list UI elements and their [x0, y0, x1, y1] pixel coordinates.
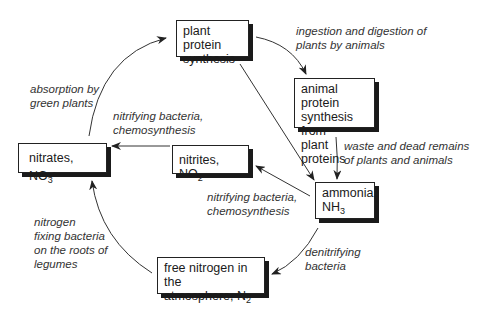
node-nitrates: nitrates, NO3- — [18, 143, 107, 173]
formula-superscript: - — [53, 167, 56, 177]
label-line: on the roots of — [34, 243, 108, 257]
label-line: green plants — [30, 96, 99, 110]
node-line: atmosphere, N2 — [164, 289, 258, 307]
node-line: NH3 — [322, 200, 368, 218]
label-line: nitrifying bacteria, — [207, 190, 297, 204]
label-line: ingestion and digestion of — [296, 24, 426, 38]
node-nitrites: nitrites, NO2 — [172, 145, 249, 174]
label-line: of plants and animals — [344, 153, 469, 167]
node-ammonia: ammonia, NH3 — [315, 182, 375, 219]
label-nitrifying-nitrites: nitrifying bacteria, chemosynthesis — [113, 109, 203, 137]
nitrogen-cycle-diagram: plant protein synthesis animal protein s… — [0, 0, 488, 320]
label-line: nitrogen — [34, 215, 108, 229]
label-nitrifying-ammonia: nitrifying bacteria, chemosynthesis — [207, 190, 297, 218]
node-free-nitrogen: free nitrogen in the atmosphere, N2 — [157, 257, 265, 294]
label-line: absorption by — [30, 82, 99, 96]
node-line: ammonia, — [322, 186, 368, 200]
formula-subscript: 3 — [340, 206, 345, 216]
label-ingestion: ingestion and digestion of plants by ani… — [296, 24, 426, 52]
formula-subscript: 2 — [246, 295, 251, 305]
label-line: denitrifying — [305, 245, 361, 259]
formula-main: NH — [322, 200, 340, 214]
label-line: chemosynthesis — [207, 204, 297, 218]
node-animal-protein-synthesis: animal protein synthesis from plant prot… — [294, 78, 375, 128]
node-line: synthesis from — [301, 110, 368, 138]
formula-subscript: 2 — [198, 173, 203, 183]
label-line: waste and dead remains — [344, 139, 469, 153]
label-waste: waste and dead remains of plants and ani… — [344, 139, 469, 167]
label-line: plants by animals — [296, 38, 426, 52]
label-denitrifying: denitrifying bacteria — [305, 245, 361, 273]
node-plant-protein-synthesis: plant protein synthesis — [176, 20, 249, 57]
label-absorption: absorption by green plants — [30, 82, 99, 110]
node-line: animal protein — [301, 82, 368, 110]
label-nitrogen-fixing: nitrogen fixing bacteria on the roots of… — [34, 215, 108, 271]
label-line: chemosynthesis — [113, 123, 203, 137]
node-line: free nitrogen in the — [164, 261, 258, 289]
label-line: bacteria — [305, 259, 361, 273]
label-line: nitrifying bacteria, — [113, 109, 203, 123]
label-line: legumes — [34, 257, 108, 271]
node-line: synthesis — [183, 52, 242, 66]
node-line: plant protein — [183, 24, 242, 52]
label-line: fixing bacteria — [34, 229, 108, 243]
formula-main: atmosphere, N — [164, 289, 246, 303]
